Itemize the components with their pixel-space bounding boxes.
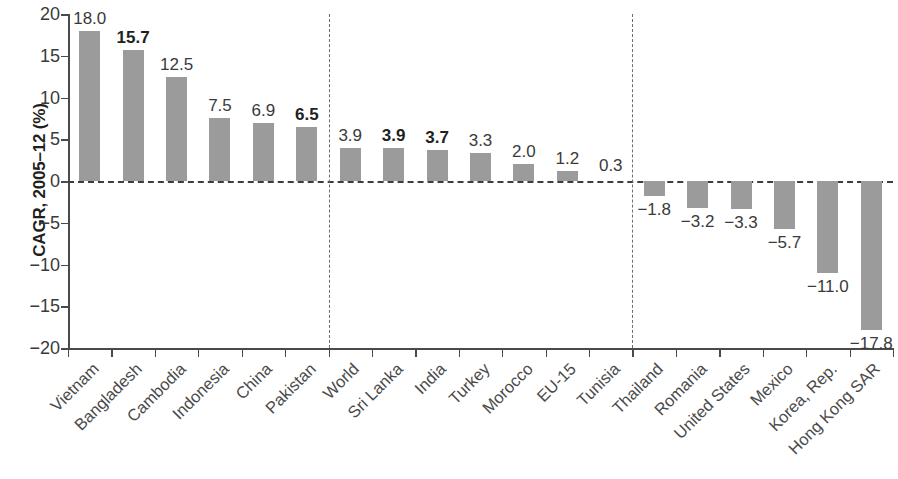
bar [253, 123, 274, 181]
bar [79, 31, 100, 181]
bar [817, 181, 838, 273]
x-axis-tick-mark [415, 348, 416, 357]
x-axis-category-label: Hong Kong SAR [730, 360, 883, 479]
bar-value-label: 0.3 [582, 157, 640, 174]
x-axis-tick-mark [676, 348, 677, 357]
bar [340, 148, 361, 181]
x-axis-tick-mark [806, 348, 807, 357]
y-axis-tick-mark [61, 265, 69, 267]
y-axis-tick-label: 0 [14, 172, 60, 190]
bar-value-label: 18.0 [61, 10, 119, 27]
x-axis-tick-mark [242, 348, 243, 357]
bar [557, 171, 578, 181]
x-axis-tick-mark [198, 348, 199, 357]
y-axis-tick-mark [61, 139, 69, 141]
y-axis-tick-mark [61, 14, 69, 16]
bar [209, 118, 230, 181]
y-axis-tick-label: 10 [14, 89, 60, 107]
group-separator-line [632, 14, 633, 348]
bar-value-label: 12.5 [148, 56, 206, 73]
bar [687, 181, 708, 208]
y-axis-tick-label: −20 [14, 339, 60, 357]
x-axis-tick-mark [155, 348, 156, 357]
x-axis-line [68, 348, 893, 350]
y-axis-tick-label: 15 [14, 47, 60, 65]
bar-value-label: −5.7 [755, 234, 813, 251]
y-axis-tick-mark [61, 181, 69, 183]
y-axis-tick-mark [61, 306, 69, 308]
bar-value-label: 15.7 [104, 29, 162, 46]
bar [123, 50, 144, 181]
y-axis-tick-mark [61, 56, 69, 58]
bar [513, 164, 534, 181]
bar [427, 150, 448, 181]
x-axis-tick-mark [632, 348, 633, 357]
bar [731, 181, 752, 209]
x-axis-tick-mark [763, 348, 764, 357]
bar-value-label: −11.0 [799, 278, 857, 295]
plot-area: 18.015.712.57.56.96.53.93.93.73.32.01.20… [68, 14, 893, 348]
x-axis-tick-mark [546, 348, 547, 357]
bar [861, 181, 882, 330]
x-axis-tick-mark [372, 348, 373, 357]
y-axis-tick-label: −10 [14, 256, 60, 274]
x-axis-tick-mark [111, 348, 112, 357]
group-separator-line [329, 14, 330, 348]
x-axis-tick-mark [329, 348, 330, 357]
x-axis-tick-mark [285, 348, 286, 357]
x-axis-tick-mark [459, 348, 460, 357]
zero-reference-line [68, 181, 893, 183]
bar [644, 181, 665, 196]
y-axis-tick-label: −15 [14, 297, 60, 315]
bar-value-label: −17.8 [842, 335, 898, 352]
y-axis-tick-label: 5 [14, 130, 60, 148]
x-axis-tick-mark [589, 348, 590, 357]
bar [383, 148, 404, 181]
y-axis-tick-label: 20 [14, 5, 60, 23]
bar [470, 153, 491, 181]
bar-value-label: 6.5 [278, 106, 336, 123]
bar [774, 181, 795, 229]
bar [296, 127, 317, 181]
bar [166, 77, 187, 181]
x-axis-tick-mark [502, 348, 503, 357]
y-axis-tick-mark [61, 98, 69, 100]
bar-value-label: −3.3 [712, 214, 770, 231]
y-axis-tick-mark [61, 223, 69, 225]
y-axis-tick-label: −5 [14, 214, 60, 232]
y-axis-tick-mark [61, 348, 69, 350]
x-axis-tick-mark [719, 348, 720, 357]
